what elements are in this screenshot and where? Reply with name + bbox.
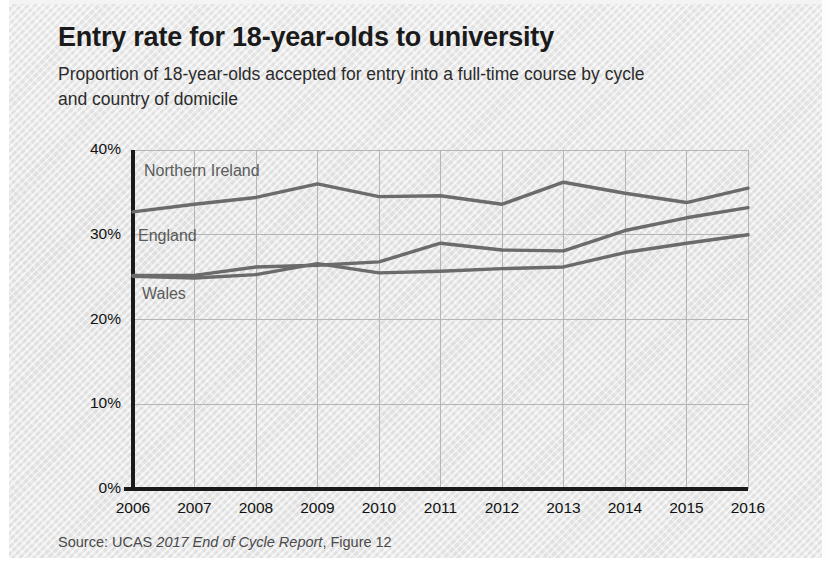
page-edge-top <box>0 0 828 4</box>
x-axis-tick-label: 2012 <box>470 499 534 517</box>
figure-title: Entry rate for 18-year-olds to universit… <box>58 22 554 53</box>
series-label-england: England <box>138 227 197 245</box>
x-axis-tick-label: 2014 <box>593 499 657 517</box>
x-axis-tick-label: 2015 <box>655 499 719 517</box>
x-axis-tick-label: 2013 <box>532 499 596 517</box>
x-axis-tick-label: 2009 <box>286 499 350 517</box>
x-axis-tick-label: 2016 <box>716 499 780 517</box>
series-label-wales: Wales <box>142 285 186 303</box>
series-label-northern-ireland: Northern Ireland <box>144 162 260 180</box>
y-axis-tick-label: 30% <box>41 225 121 243</box>
x-axis-tick-label: 2007 <box>163 499 227 517</box>
x-axis-tick-label: 2008 <box>224 499 288 517</box>
series-line-wales <box>133 235 748 278</box>
source-prefix: Source: UCAS <box>58 534 156 550</box>
page-edge-right <box>822 0 828 571</box>
x-axis-tick-label: 2011 <box>409 499 473 517</box>
page-edge-bottom <box>0 558 828 571</box>
figure-subtitle: Proportion of 18-year-olds accepted for … <box>58 62 678 113</box>
x-axis-tick-label: 2010 <box>347 499 411 517</box>
y-axis-tick-label: 40% <box>41 140 121 158</box>
y-axis-tick-label: 0% <box>41 479 121 497</box>
source-caption: Source: UCAS 2017 End of Cycle Report, F… <box>58 534 392 550</box>
series-line-northern-ireland <box>133 182 748 212</box>
source-suffix: , Figure 12 <box>322 534 391 550</box>
page-edge-left <box>0 0 9 571</box>
x-axis-tick-label: 2006 <box>101 499 165 517</box>
figure-page: Entry rate for 18-year-olds to universit… <box>0 0 828 571</box>
series-line-england <box>133 208 748 276</box>
y-axis-tick-label: 10% <box>41 394 121 412</box>
source-report-title: 2017 End of Cycle Report <box>156 534 322 550</box>
y-axis-tick-label: 20% <box>41 310 121 328</box>
